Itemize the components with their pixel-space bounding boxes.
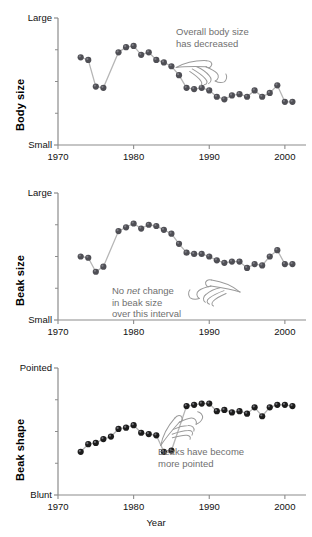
data-point-highlight (124, 426, 126, 428)
data-point-highlight (283, 403, 285, 405)
data-point-highlight (230, 410, 232, 412)
data-point-highlight (290, 404, 292, 406)
data-point-highlight (132, 221, 134, 223)
panel-body-size-xtick-1990: 1990 (195, 151, 223, 162)
x-axis-title: Year (0, 517, 312, 528)
panel-body-size-ytick-bottom: Small (0, 139, 52, 150)
panel-beak-size-xtick-1990: 1990 (195, 326, 223, 337)
data-point (93, 83, 99, 89)
data-point (138, 52, 144, 58)
data-point (259, 262, 265, 268)
data-point-highlight (275, 403, 277, 405)
data-point-highlight (260, 414, 262, 416)
panel-beak-size: Beak sizeLargeSmall1970198019902000No ne… (0, 175, 312, 355)
panel-beak-shape-xtick-1970: 1970 (44, 501, 72, 512)
panel-body-size-xtick-2000: 2000 (271, 151, 299, 162)
panel-beak-size-xtick-1980: 1980 (120, 326, 148, 337)
data-point-highlight (132, 423, 134, 425)
data-point (131, 422, 137, 428)
data-point (138, 225, 144, 231)
data-point (100, 85, 106, 91)
data-point-highlight (230, 259, 232, 261)
data-point (161, 227, 167, 233)
data-point-highlight (154, 58, 156, 60)
data-point (85, 441, 91, 447)
data-point (93, 440, 99, 446)
data-point-highlight (154, 224, 156, 226)
data-point-highlight (215, 95, 217, 97)
data-point (274, 402, 280, 408)
data-point-highlight (139, 226, 141, 228)
figure-darwin-finch-measurements: Body sizeLargeSmall1970198019902000Overa… (0, 0, 312, 537)
data-point-highlight (101, 437, 103, 439)
data-point (191, 251, 197, 257)
data-point (289, 261, 295, 267)
data-point-highlight (268, 91, 270, 93)
data-point-highlight (94, 441, 96, 443)
panel-beak-shape-y-axis-title: Beak shape (14, 419, 26, 481)
panel-beak-shape-ytick-bottom: Blunt (0, 489, 52, 500)
data-point (138, 430, 144, 436)
data-point (236, 408, 242, 414)
data-point (199, 251, 205, 257)
data-point-highlight (117, 50, 119, 52)
data-point (100, 264, 106, 270)
data-point (85, 57, 91, 63)
data-point-highlight (132, 44, 134, 46)
data-point-highlight (290, 100, 292, 102)
data-point-highlight (268, 254, 270, 256)
data-point (221, 96, 227, 102)
data-points (78, 220, 296, 274)
data-point (282, 261, 288, 267)
data-point (78, 449, 84, 455)
data-point (131, 43, 137, 49)
data-point (108, 433, 114, 439)
data-point (274, 247, 280, 253)
data-point-highlight (268, 405, 270, 407)
data-point (244, 94, 250, 100)
data-point (259, 413, 265, 419)
data-point (153, 223, 159, 229)
data-point-highlight (139, 53, 141, 55)
data-point (146, 49, 152, 55)
data-point (176, 241, 182, 247)
data-point (267, 90, 273, 96)
data-point-highlight (215, 409, 217, 411)
data-point-highlight (200, 401, 202, 403)
data-point-highlight (117, 229, 119, 231)
data-point-highlight (275, 83, 277, 85)
data-point-highlight (230, 93, 232, 95)
panel-beak-size-ytick-bottom: Small (0, 314, 52, 325)
data-point-highlight (253, 88, 255, 90)
data-point (146, 222, 152, 228)
data-point (252, 404, 258, 410)
data-point-highlight (253, 262, 255, 264)
data-point-highlight (215, 258, 217, 260)
data-point-highlight (253, 405, 255, 407)
data-point-highlight (245, 266, 247, 268)
data-point-highlight (162, 60, 164, 62)
pointing-hand-right-icon (185, 272, 242, 310)
data-point (123, 44, 129, 50)
data-point (274, 82, 280, 88)
data-point (78, 54, 84, 60)
data-point (229, 409, 235, 415)
data-point-highlight (101, 86, 103, 88)
data-point-highlight (94, 270, 96, 272)
data-point (282, 99, 288, 105)
panel-beak-size-y-axis-title: Beak size (14, 255, 26, 306)
panel-body-size: Body sizeLargeSmall1970198019902000Overa… (0, 0, 312, 180)
data-point-highlight (109, 434, 111, 436)
panel-body-size-ytick-top: Large (0, 12, 52, 23)
data-point (100, 436, 106, 442)
panel-beak-shape-ytick-top: Pointed (0, 362, 52, 373)
data-point-highlight (139, 431, 141, 433)
panel-beak-shape-xtick-2000: 2000 (271, 501, 299, 512)
data-point-highlight (222, 97, 224, 99)
panel-body-size-xtick-1980: 1980 (120, 151, 148, 162)
data-point (206, 400, 212, 406)
data-point (252, 261, 258, 267)
data-point-highlight (192, 252, 194, 254)
data-point (214, 94, 220, 100)
data-point-highlight (147, 223, 149, 225)
